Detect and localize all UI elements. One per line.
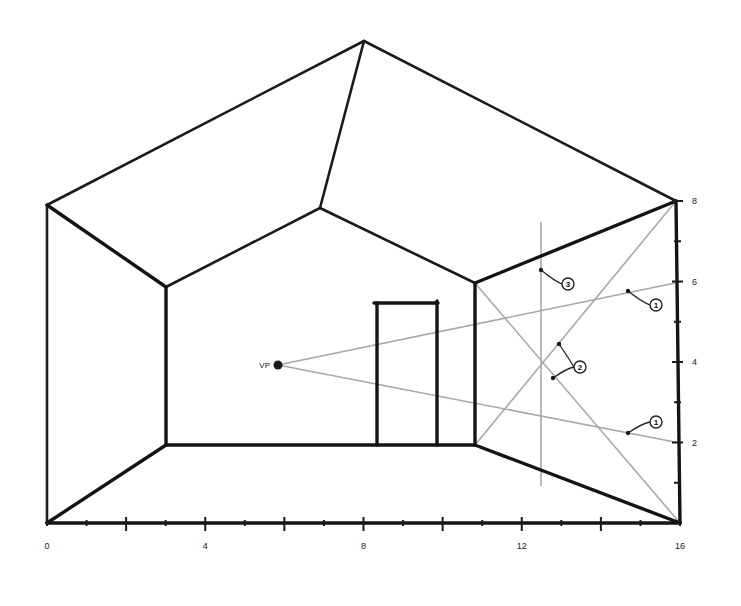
callout-target-dot xyxy=(551,376,555,380)
callout-leader-line xyxy=(628,422,650,433)
x-axis-label: 16 xyxy=(675,541,685,551)
y-axis-label: 6 xyxy=(692,277,697,287)
callout-target-dot xyxy=(626,431,630,435)
y-axis-label: 4 xyxy=(692,357,697,367)
back-wall-roof-right xyxy=(320,208,475,283)
callout-number: 1 xyxy=(654,301,659,310)
ceiling-corner-left xyxy=(47,205,166,287)
back-wall-roof-left xyxy=(166,208,320,287)
floor-corner-left xyxy=(47,445,166,523)
y-axis-ruler: 2468 xyxy=(672,196,697,523)
callout-1: 3 xyxy=(539,268,574,290)
callout-number: 2 xyxy=(578,363,583,372)
callout-number: 3 xyxy=(566,280,571,289)
callout-target-dot xyxy=(626,289,630,293)
y-axis-label: 8 xyxy=(692,196,697,206)
vanishing-point: VP xyxy=(259,361,282,370)
callout-leader-line xyxy=(628,291,650,305)
vanishing-point-dot xyxy=(274,361,283,370)
ceiling-edge-left xyxy=(47,41,364,205)
floor-corner-right xyxy=(475,445,680,523)
ceiling-edge-right xyxy=(364,41,676,201)
x-axis-label: 4 xyxy=(203,541,208,551)
perspective-room-diagram: 0481216 2468 VP 3121 xyxy=(0,0,741,606)
callout-leader-line xyxy=(559,344,574,367)
room-structure xyxy=(47,41,680,523)
guide-line-diag-floor-to-top xyxy=(475,201,676,445)
construction-guide-lines xyxy=(278,201,680,523)
guide-line-vp-to-2 xyxy=(278,365,680,443)
ceiling-corner-right xyxy=(475,201,676,283)
callout-leader-line xyxy=(553,367,574,378)
callout-number: 1 xyxy=(654,418,659,427)
vanishing-point-label: VP xyxy=(259,361,270,370)
x-axis-label: 12 xyxy=(517,541,527,551)
guide-line-diag-top-to-floor xyxy=(475,283,680,523)
ridge-line xyxy=(320,41,364,208)
door xyxy=(374,301,438,445)
callout-target-dot xyxy=(539,268,543,272)
x-axis-label: 0 xyxy=(44,541,49,551)
guide-line-vp-to-6 xyxy=(278,282,680,365)
callout-leader-line xyxy=(541,270,562,284)
x-axis-ruler: 0481216 xyxy=(44,517,685,551)
callout-4: 1 xyxy=(626,416,662,435)
y-axis-label: 2 xyxy=(692,438,697,448)
callout-target-dot xyxy=(557,342,561,346)
x-axis-label: 8 xyxy=(361,541,366,551)
